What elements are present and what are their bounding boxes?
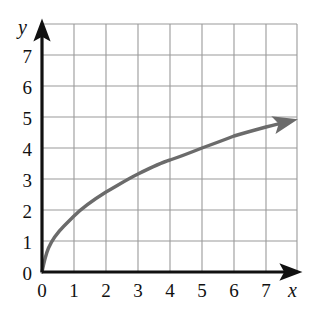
y-tick-label-6: 6 <box>14 78 32 97</box>
y-tick-label-0: 0 <box>14 264 32 283</box>
graph-figure: 7 6 5 4 3 2 1 0 0 1 2 3 4 5 6 7 y x <box>0 0 312 314</box>
coordinate-plane <box>0 0 312 314</box>
x-tick-label-3: 3 <box>129 281 147 300</box>
x-tick-label-0: 0 <box>33 281 51 300</box>
x-axis-label: x <box>288 280 297 300</box>
y-tick-label-7: 7 <box>14 47 32 66</box>
y-tick-label-5: 5 <box>14 109 32 128</box>
y-tick-label-3: 3 <box>14 171 32 190</box>
y-tick-label-4: 4 <box>14 140 32 159</box>
x-tick-label-6: 6 <box>225 281 243 300</box>
x-tick-label-5: 5 <box>193 281 211 300</box>
y-tick-label-1: 1 <box>14 233 32 252</box>
x-tick-label-1: 1 <box>65 281 83 300</box>
y-axis-label: y <box>18 17 27 37</box>
x-tick-label-7: 7 <box>257 281 275 300</box>
x-tick-label-2: 2 <box>97 281 115 300</box>
x-tick-label-4: 4 <box>161 281 179 300</box>
y-tick-label-2: 2 <box>14 202 32 221</box>
